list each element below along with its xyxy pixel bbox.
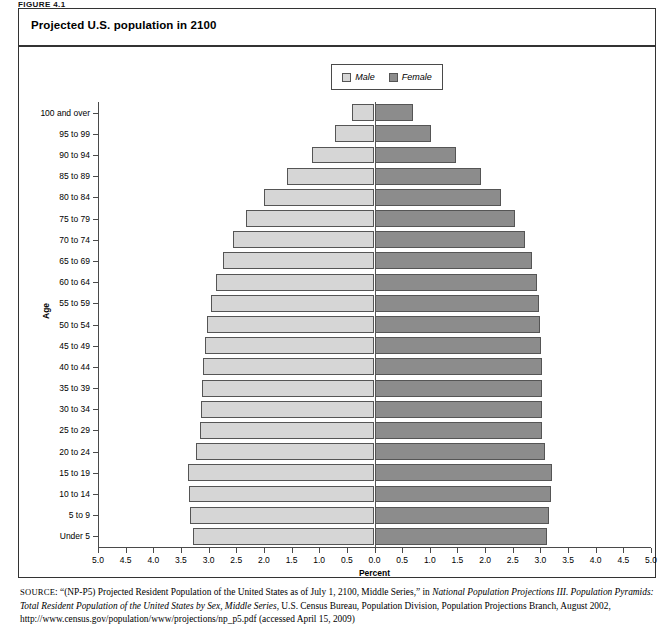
x-axis-tick — [98, 548, 99, 553]
y-axis-tick-label: 30 to 34 — [59, 404, 90, 414]
bar-female — [375, 104, 414, 121]
x-axis-tick — [402, 548, 403, 553]
x-axis-tick — [430, 548, 431, 553]
x-axis-tick — [596, 548, 597, 553]
x-axis-tick-label: 3.0 — [534, 555, 546, 565]
legend-item-male: Male — [342, 72, 375, 82]
bar-female — [375, 358, 542, 375]
y-axis-tick-label: 45 to 49 — [59, 341, 90, 351]
bar-male — [201, 401, 375, 418]
bar-female — [375, 337, 541, 354]
y-axis-tick-label: 20 to 24 — [59, 447, 90, 457]
x-axis-tick-label: 1.5 — [286, 555, 298, 565]
y-axis-tick-label: 25 to 29 — [59, 425, 90, 435]
bar-female — [375, 210, 515, 227]
y-axis-tick-label: 65 to 69 — [59, 256, 90, 266]
bar-female — [375, 422, 543, 439]
x-axis-tick — [485, 548, 486, 553]
y-axis-tick-label: 15 to 19 — [59, 468, 90, 478]
x-axis-tick-label: 4.5 — [120, 555, 132, 565]
bar-male — [287, 168, 374, 185]
y-axis-tick-label: 75 to 79 — [59, 214, 90, 224]
x-axis-tick-label: 2.0 — [258, 555, 270, 565]
bar-male — [202, 380, 375, 397]
x-axis-tick-label: 0.5 — [341, 555, 353, 565]
bar-male — [203, 358, 374, 375]
bar-male — [200, 422, 374, 439]
bar-female — [375, 189, 501, 206]
y-axis-tick-label: 70 to 74 — [59, 235, 90, 245]
x-axis-tick — [236, 548, 237, 553]
x-axis-tick — [153, 548, 154, 553]
y-axis-tick-label: 90 to 94 — [59, 150, 90, 160]
figure-page: FIGURE 4.1 Projected U.S. population in … — [0, 0, 672, 632]
x-axis-tick — [457, 548, 458, 553]
y-axis-tick-label: 60 to 64 — [59, 277, 90, 287]
y-axis-tick-label: 40 to 44 — [59, 362, 90, 372]
x-axis-tick-label: 3.0 — [203, 555, 215, 565]
bar-female — [375, 443, 545, 460]
bar-female — [375, 528, 548, 545]
bar-male — [189, 486, 375, 503]
x-axis-tick-label: 1.5 — [452, 555, 464, 565]
bar-female — [375, 231, 525, 248]
x-axis-tick-label: 2.0 — [479, 555, 491, 565]
x-axis-tick-label: 5.0 — [645, 555, 657, 565]
x-axis-tick — [623, 548, 624, 553]
bar-female — [375, 252, 533, 269]
bar-male — [246, 210, 374, 227]
y-axis-tick-label: 85 to 89 — [59, 171, 90, 181]
bar-female — [375, 125, 432, 142]
source-prefix: SOURCE — [20, 587, 55, 597]
x-axis-tick — [264, 548, 265, 553]
source-note: SOURCE: “(NP-P5) Projected Resident Popu… — [20, 586, 654, 627]
bar-female — [375, 316, 540, 333]
x-axis-tick-label: 4.0 — [590, 555, 602, 565]
bar-female — [375, 507, 550, 524]
bar-male — [211, 295, 375, 312]
x-axis-tick-label: 4.5 — [617, 555, 629, 565]
x-axis-tick — [292, 548, 293, 553]
y-axis-tick-label: 10 to 14 — [59, 489, 90, 499]
bar-female — [375, 401, 543, 418]
legend-label-male: Male — [355, 72, 375, 82]
x-axis-tick-label: 5.0 — [92, 555, 104, 565]
x-axis-tick — [540, 548, 541, 553]
y-axis-tick-label: 100 and over — [40, 108, 90, 118]
x-axis-tick-label: 2.5 — [507, 555, 519, 565]
y-axis-line — [98, 102, 99, 548]
bar-male — [190, 507, 374, 524]
page-title: Projected U.S. population in 2100 — [31, 19, 216, 31]
y-axis-tick-label: 5 to 9 — [69, 510, 90, 520]
x-axis-tick-label: 0.0 — [369, 555, 381, 565]
y-axis-tick-label: 50 to 54 — [59, 320, 90, 330]
bar-male — [216, 274, 375, 291]
x-axis-tick — [126, 548, 127, 553]
bar-male — [188, 464, 375, 481]
bar-male — [264, 189, 375, 206]
y-axis-tick-label: 80 to 84 — [59, 192, 90, 202]
bar-male — [205, 337, 375, 354]
x-axis-tick — [209, 548, 210, 553]
bar-male — [193, 528, 375, 545]
x-axis-tick — [568, 548, 569, 553]
bar-female — [375, 464, 553, 481]
x-axis-tick-label: 1.0 — [313, 555, 325, 565]
y-axis-tick-label: 55 to 59 — [59, 298, 90, 308]
bar-female — [375, 380, 542, 397]
x-axis-tick — [375, 548, 376, 553]
center-axis-line — [375, 102, 376, 548]
x-axis-tick-label: 0.5 — [396, 555, 408, 565]
legend-swatch-female-icon — [389, 73, 398, 82]
title-divider — [19, 45, 655, 47]
x-axis-tick-label: 2.5 — [230, 555, 242, 565]
x-axis-tick — [347, 548, 348, 553]
x-axis-tick-label: 1.0 — [424, 555, 436, 565]
x-axis-tick — [319, 548, 320, 553]
bar-female — [375, 168, 481, 185]
bar-male — [312, 147, 374, 164]
bar-male — [352, 104, 374, 121]
x-axis-tick-label: 4.0 — [147, 555, 159, 565]
legend-item-female: Female — [389, 72, 432, 82]
legend-label-female: Female — [402, 72, 432, 82]
